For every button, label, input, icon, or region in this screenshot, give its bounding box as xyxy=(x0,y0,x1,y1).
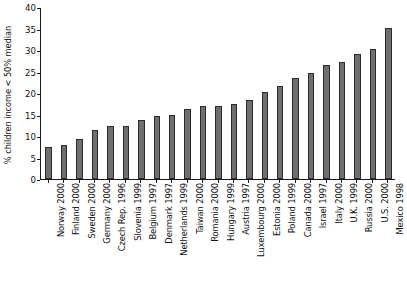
bar xyxy=(215,106,221,179)
x-tick-label: Austria 1997 xyxy=(239,183,253,235)
x-tick-label: Slovenia 1999 xyxy=(131,183,145,241)
x-tick-label: U.S. 2000 xyxy=(378,183,392,222)
x-tick-label: Taiwan 2000 xyxy=(193,183,207,234)
y-axis-tick-labels: 0510152025303540 xyxy=(16,0,38,190)
bar xyxy=(308,73,314,179)
x-tick-label: Germany 2000 xyxy=(100,183,114,244)
bar xyxy=(231,104,237,179)
x-axis-tick-labels: Norway 2000Finland 2000Sweden 2000German… xyxy=(41,183,396,283)
y-tick-label: 25 xyxy=(25,68,36,77)
y-tick-label: 0 xyxy=(31,176,36,185)
y-tick-label: 5 xyxy=(31,154,36,163)
bar xyxy=(370,49,376,179)
y-tick-mark xyxy=(37,137,40,138)
bar xyxy=(92,130,98,179)
y-axis-title: % children income < 50% median xyxy=(0,0,16,190)
bar xyxy=(61,145,67,179)
y-tick-mark xyxy=(37,8,40,9)
y-tick-label: 10 xyxy=(25,133,36,142)
x-tick-label: Canada 2000 xyxy=(301,183,315,237)
y-tick-label: 15 xyxy=(25,111,36,120)
x-tick-label: Israel 1997 xyxy=(316,183,330,228)
bar xyxy=(184,109,190,179)
y-tick-label: 40 xyxy=(25,4,36,13)
bar xyxy=(354,54,360,179)
bar xyxy=(154,116,160,179)
bar xyxy=(339,62,345,179)
y-axis-title-text: % children income < 50% median xyxy=(3,26,13,164)
x-tick-label: Sweden 2000 xyxy=(85,183,99,238)
y-tick-mark xyxy=(37,180,40,181)
x-tick-label: Belgium 1997 xyxy=(146,183,160,240)
y-tick-label: 30 xyxy=(25,47,36,56)
y-tick-label: 35 xyxy=(25,25,36,34)
x-tick-label: Finland 2000 xyxy=(69,183,83,235)
x-tick-label: Norway 2000 xyxy=(54,183,68,237)
x-tick-label: U.K. 1999 xyxy=(347,183,361,223)
x-tick-label: Estonia 2000 xyxy=(270,183,284,236)
x-tick-label: Luxembourg 2000 xyxy=(254,183,268,257)
bar xyxy=(169,115,175,179)
x-tick-label: Netherlands 1999 xyxy=(177,183,191,256)
bar xyxy=(323,65,329,179)
y-tick-mark xyxy=(37,30,40,31)
x-tick-label: Mexico 1998 xyxy=(393,183,407,235)
bar xyxy=(138,120,144,179)
bar xyxy=(292,78,298,179)
bar xyxy=(277,86,283,179)
x-tick-label: Russia 2000 xyxy=(362,183,376,232)
y-tick-label: 20 xyxy=(25,90,36,99)
bar xyxy=(123,126,129,179)
x-tick-label: Czech Rep. 1996 xyxy=(115,183,129,251)
bar xyxy=(246,100,252,179)
x-tick-label: Romania 2000 xyxy=(208,183,222,242)
y-tick-mark xyxy=(37,73,40,74)
x-tick-label: Poland 1999 xyxy=(285,183,299,233)
x-tick-label: Denmark 1997 xyxy=(162,183,176,244)
x-tick-label: Italy 2000 xyxy=(332,183,346,224)
bar xyxy=(200,106,206,179)
x-tick-label: Hungary 1999 xyxy=(224,183,238,241)
y-tick-mark xyxy=(37,116,40,117)
bar xyxy=(385,28,391,179)
y-tick-mark xyxy=(37,159,40,160)
plot-area xyxy=(40,8,395,180)
bar xyxy=(76,139,82,179)
bar xyxy=(107,126,113,179)
bar xyxy=(45,147,51,179)
bar xyxy=(262,92,268,179)
y-tick-mark xyxy=(37,94,40,95)
y-tick-mark xyxy=(37,51,40,52)
bars-layer xyxy=(41,8,395,179)
